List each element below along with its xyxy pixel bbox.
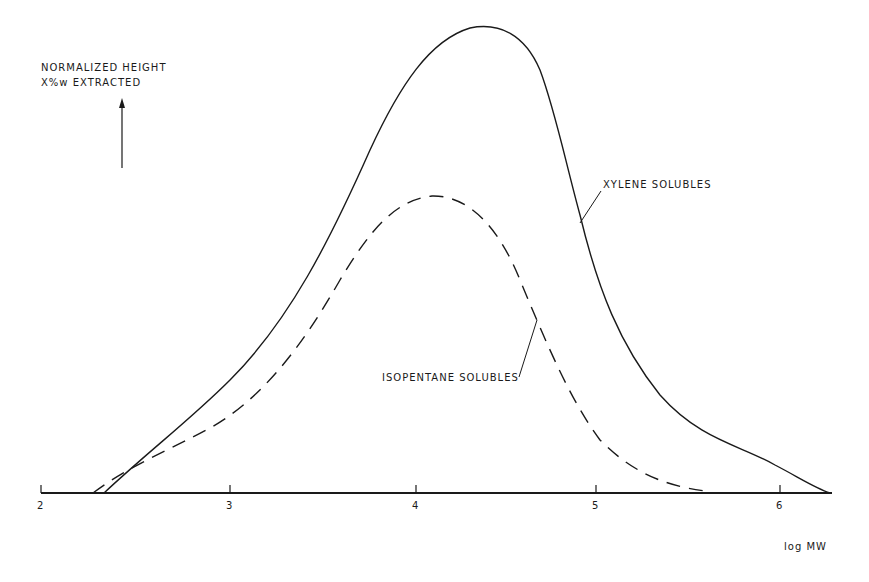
tick-label-6: 6 [776, 500, 782, 511]
xylene-annotation: XYLENE SOLUBLES [580, 179, 712, 223]
x-axis: 2 3 4 5 6 log MW [37, 485, 832, 552]
tick-label-5: 5 [592, 500, 598, 511]
tick-label-3: 3 [226, 500, 232, 511]
xylene-solubles-curve [104, 27, 830, 493]
isopentane-solubles-curve [93, 196, 705, 493]
isopentane-label: ISOPENTANE SOLUBLES [382, 372, 519, 383]
isopentane-annotation: ISOPENTANE SOLUBLES [382, 320, 537, 383]
tick-label-4: 4 [412, 500, 418, 511]
chart: NORMALIZED HEIGHT X%w EXTRACTED 2 3 4 5 … [0, 0, 869, 582]
y-axis-label-line2: X%w EXTRACTED [41, 77, 141, 88]
xylene-label: XYLENE SOLUBLES [603, 179, 712, 190]
up-arrow-icon [119, 98, 125, 168]
tick-label-2: 2 [37, 500, 43, 511]
y-axis-label-line1: NORMALIZED HEIGHT [41, 62, 167, 73]
x-axis-label: log MW [784, 541, 827, 552]
